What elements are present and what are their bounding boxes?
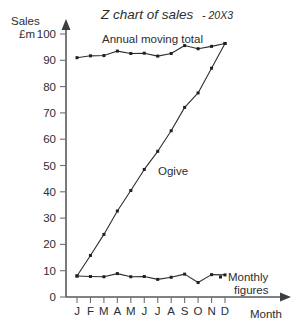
x-tick-label: N <box>207 305 215 317</box>
x-tick-label: S <box>181 305 189 317</box>
y-tick-label: 70 <box>43 107 56 119</box>
annual-moving-total-marker <box>102 54 105 57</box>
monthly-figures-annotation-dot <box>219 276 222 279</box>
y-tick-label: 0 <box>50 291 56 303</box>
annotation-monthly-figures-line1: Monthly <box>228 271 269 283</box>
monthly-figures-marker <box>156 278 159 281</box>
x-tick-label: A <box>114 305 122 317</box>
monthly-figures-marker <box>129 275 132 278</box>
x-tick-label: O <box>194 305 203 317</box>
monthly-figures-marker <box>143 275 146 278</box>
annual-moving-total-marker <box>210 45 213 48</box>
x-tick-label: M <box>99 305 109 317</box>
annual-moving-total-marker <box>143 52 146 55</box>
ogive-marker <box>102 233 105 236</box>
ogive-marker <box>129 189 132 192</box>
x-tick-label: J <box>155 305 161 317</box>
annual-moving-total-marker <box>197 47 200 50</box>
x-axis-title: Month <box>250 308 282 320</box>
monthly-figures-marker <box>183 273 186 276</box>
ogive-marker <box>224 42 227 45</box>
y-tick-label: 10 <box>43 265 56 277</box>
annual-moving-total-marker <box>129 52 132 55</box>
x-tick-label: J <box>141 305 147 317</box>
ogive-marker <box>197 91 200 94</box>
y-tick-label: 60 <box>43 133 56 145</box>
y-axis-title-line2: £m <box>19 28 35 40</box>
annotation-ogive: Ogive <box>158 165 188 177</box>
chart-title: Z chart of sales - 20X3 <box>100 7 233 22</box>
monthly-figures-marker <box>116 272 119 275</box>
monthly-figures-marker <box>224 273 227 276</box>
monthly-figures-marker <box>210 273 213 276</box>
y-tick-label: 20 <box>43 238 56 250</box>
y-tick-label: 30 <box>43 212 56 224</box>
y-tick-label: 50 <box>43 160 56 172</box>
x-tick-label: A <box>167 305 175 317</box>
monthly-figures-marker <box>170 276 173 279</box>
annual-moving-total-marker <box>89 54 92 57</box>
z-chart-figure: Z chart of sales - 20X3 Sales £m Month <box>0 0 298 329</box>
ogive-marker <box>116 210 119 213</box>
chart-title-year: - 20X3 <box>202 9 233 21</box>
annotation-monthly-figures-line2: figures <box>234 284 269 296</box>
y-tick-label: 80 <box>43 81 56 93</box>
y-tick-label: 90 <box>43 54 56 66</box>
monthly-figures-marker <box>89 275 92 278</box>
ogive-marker <box>89 254 92 257</box>
monthly-figures-marker <box>76 274 79 277</box>
annual-moving-total-marker <box>156 55 159 58</box>
monthly-figures-marker <box>197 281 200 284</box>
x-tick-label: M <box>126 305 136 317</box>
y-tick-label: 40 <box>43 186 56 198</box>
annual-moving-total-marker <box>170 52 173 55</box>
y-axis-title-line1: Sales <box>11 15 40 27</box>
y-tick-label: 100 <box>37 28 56 40</box>
ogive-marker <box>170 129 173 132</box>
monthly-figures-marker <box>102 275 105 278</box>
ogive-marker <box>143 168 146 171</box>
annual-moving-total-marker <box>76 56 79 59</box>
x-tick-label: F <box>87 305 94 317</box>
ogive-marker <box>156 150 159 153</box>
annual-moving-total-marker <box>116 50 119 53</box>
ogive-marker <box>210 67 213 70</box>
annotation-annual-moving-total: Annual moving total <box>102 33 203 45</box>
chart-title-main: Z chart of sales <box>100 7 194 22</box>
ogive-marker <box>183 106 186 109</box>
x-tick-label: D <box>221 305 229 317</box>
x-tick-label: J <box>74 305 80 317</box>
